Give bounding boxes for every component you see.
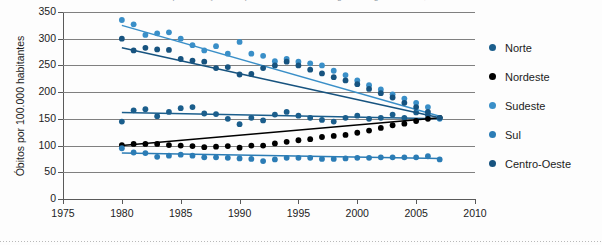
y-axis-tick-label: 300 — [6, 32, 56, 44]
data-point — [401, 115, 407, 121]
data-point — [366, 116, 372, 122]
data-point — [178, 36, 184, 42]
series-sudeste — [119, 17, 443, 122]
legend-item-nordeste[interactable]: Nordeste — [489, 62, 599, 91]
data-point — [201, 48, 207, 54]
x-axis-tick-label: 2010 — [453, 207, 497, 219]
data-point — [166, 153, 172, 159]
data-point — [131, 141, 137, 147]
data-point — [390, 154, 396, 160]
data-point — [190, 58, 196, 64]
x-axis-tick-label: 1990 — [218, 207, 262, 219]
data-point — [119, 145, 125, 151]
series-centro-oeste — [119, 36, 443, 121]
data-point — [319, 71, 325, 77]
data-point — [390, 95, 396, 101]
data-point — [437, 157, 443, 163]
data-point — [143, 141, 149, 147]
data-point — [190, 143, 196, 149]
data-point — [354, 155, 360, 161]
data-point — [143, 150, 149, 156]
x-axis-tick-label: 1995 — [276, 207, 320, 219]
data-point — [401, 121, 407, 127]
data-point — [225, 155, 231, 161]
data-point — [319, 117, 325, 123]
data-point — [166, 109, 172, 115]
data-point — [237, 39, 243, 45]
data-point — [213, 144, 219, 150]
chart-figure: Mortalidade por doenças do aparelho circ… — [0, 0, 602, 245]
data-point — [248, 156, 254, 162]
data-point — [331, 156, 337, 162]
data-point — [154, 30, 160, 36]
data-point — [378, 125, 384, 131]
legend-item-label: Sudeste — [505, 100, 545, 112]
legend-item-sudeste[interactable]: Sudeste — [489, 91, 599, 120]
data-point — [154, 154, 160, 160]
data-point — [413, 154, 419, 160]
data-point — [366, 86, 372, 92]
data-point — [331, 74, 337, 80]
page-divider — [0, 241, 602, 242]
y-axis-tick-label: 100 — [6, 139, 56, 151]
data-point — [119, 119, 125, 125]
y-axis-tick — [58, 39, 63, 40]
legend-item-sul[interactable]: Sul — [489, 120, 599, 149]
x-axis-tick — [357, 199, 358, 204]
data-point — [354, 130, 360, 136]
x-axis-tick — [63, 199, 64, 204]
data-point — [190, 153, 196, 159]
x-axis-tick-label: 2000 — [335, 207, 379, 219]
data-point — [190, 104, 196, 110]
data-point — [319, 63, 325, 69]
data-point — [166, 142, 172, 148]
data-point — [378, 154, 384, 160]
data-point — [131, 107, 137, 113]
legend-item-label: Nordeste — [505, 71, 550, 83]
data-point — [260, 65, 266, 71]
data-point — [343, 155, 349, 161]
data-point — [413, 104, 419, 110]
series-sul — [119, 145, 443, 164]
data-point — [178, 56, 184, 62]
data-point — [178, 105, 184, 111]
data-point — [213, 154, 219, 160]
data-point — [237, 155, 243, 161]
data-point — [260, 143, 266, 149]
legend-marker-icon — [489, 102, 496, 109]
y-axis-tick-label: 0 — [6, 192, 56, 204]
data-point — [307, 115, 313, 121]
data-point — [284, 139, 290, 145]
data-point — [272, 112, 278, 118]
legend-item-norte[interactable]: Norte — [489, 33, 599, 62]
x-axis-tick-label: 1980 — [100, 207, 144, 219]
data-point — [190, 42, 196, 48]
x-axis-tick-label: 2005 — [394, 207, 438, 219]
data-point — [331, 133, 337, 139]
data-point — [201, 154, 207, 160]
data-point — [272, 141, 278, 147]
data-point — [213, 111, 219, 117]
data-point — [401, 154, 407, 160]
data-point — [366, 155, 372, 161]
data-point — [319, 134, 325, 140]
data-point — [296, 63, 302, 69]
data-point — [390, 112, 396, 118]
data-point — [225, 64, 231, 70]
data-point — [343, 115, 349, 121]
trendline — [122, 118, 440, 146]
data-point — [296, 113, 302, 119]
data-point — [354, 113, 360, 119]
x-axis-tick — [122, 199, 123, 204]
legend-item-centro-oeste[interactable]: Centro-Oeste — [489, 149, 599, 178]
data-point — [248, 51, 254, 57]
data-point — [425, 116, 431, 122]
x-axis-tick-label: 1975 — [41, 207, 85, 219]
data-point — [307, 67, 313, 73]
legend-marker-icon — [489, 73, 496, 80]
y-axis-tick — [58, 172, 63, 173]
data-point — [284, 59, 290, 65]
data-point — [237, 121, 243, 127]
chart-title-clipped: Mortalidade por doenças do aparelho circ… — [0, 0, 602, 5]
data-point — [225, 116, 231, 122]
